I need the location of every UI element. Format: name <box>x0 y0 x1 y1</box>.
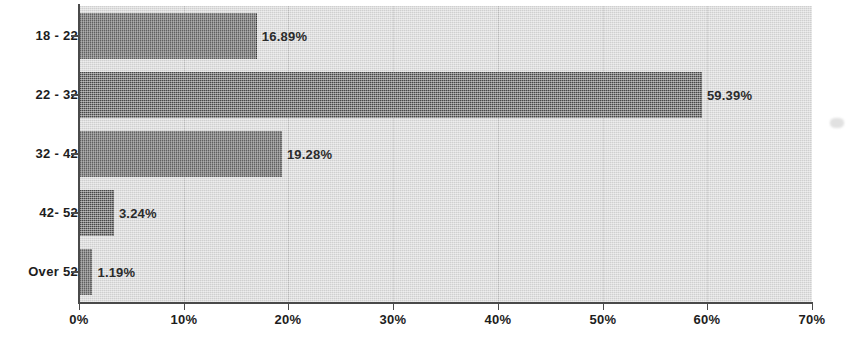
category-tick <box>71 271 78 273</box>
bar-row <box>79 190 812 236</box>
category-label: 42- 52 <box>8 205 78 220</box>
bar-chart: 16.89%59.39%19.28%3.24%1.19% 18 - 2222 -… <box>0 0 850 346</box>
x-axis-tick <box>184 303 185 310</box>
category-label: 22 - 32 <box>8 87 78 102</box>
x-axis-line <box>78 302 813 304</box>
bar-value-label: 3.24% <box>119 206 157 221</box>
bar[interactable] <box>79 190 114 236</box>
scan-artifact <box>830 118 844 128</box>
x-axis-tick <box>393 303 394 310</box>
category-label: Over 52 <box>8 264 78 279</box>
x-axis-label: 60% <box>694 312 721 327</box>
bar-row <box>79 72 812 118</box>
category-tick <box>71 94 78 96</box>
bar-value-label: 59.39% <box>707 87 752 102</box>
bar[interactable] <box>79 249 92 295</box>
x-axis-label: 20% <box>275 312 302 327</box>
category-axis-labels: 18 - 2222 - 3232 - 4242- 52Over 52 <box>0 0 78 346</box>
x-axis-label: 30% <box>380 312 407 327</box>
category-label: 32 - 42 <box>8 146 78 161</box>
x-axis-tick <box>603 303 604 310</box>
x-axis-tick <box>812 303 813 310</box>
bar[interactable] <box>79 13 257 59</box>
bar-value-label: 1.19% <box>97 265 135 280</box>
category-label: 18 - 22 <box>8 28 78 43</box>
bar[interactable] <box>79 131 282 177</box>
x-axis-label: 10% <box>171 312 198 327</box>
bar-row <box>79 131 812 177</box>
x-axis-label: 50% <box>590 312 617 327</box>
bar-value-label: 19.28% <box>287 147 332 162</box>
x-axis-tick <box>498 303 499 310</box>
category-tick <box>71 35 78 37</box>
x-axis-label: 70% <box>799 312 826 327</box>
plot-area <box>79 6 812 302</box>
bar[interactable] <box>79 72 702 118</box>
x-axis-tick <box>288 303 289 310</box>
category-tick <box>71 212 78 214</box>
bar-value-label: 16.89% <box>262 28 307 43</box>
x-axis-label: 0% <box>69 312 88 327</box>
bar-row <box>79 249 812 295</box>
x-axis-tick <box>707 303 708 310</box>
x-axis-tick <box>79 303 80 310</box>
bar-row <box>79 13 812 59</box>
category-tick <box>71 153 78 155</box>
x-axis-label: 40% <box>485 312 512 327</box>
y-axis-line <box>78 4 80 304</box>
